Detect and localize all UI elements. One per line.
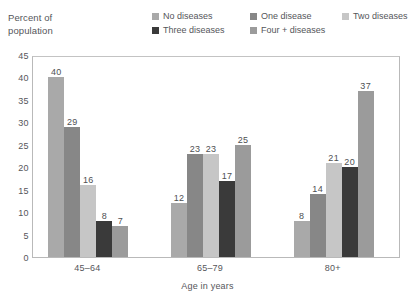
y-axis-title: Percent of population — [8, 12, 93, 37]
bar — [358, 91, 374, 257]
legend-label-two-diseases: Two diseases — [353, 11, 408, 21]
bar — [294, 221, 310, 257]
y-axis-title-line-2: population — [8, 25, 93, 38]
bar — [64, 127, 80, 257]
legend-label-four-plus-diseases: Four + diseases — [261, 25, 325, 35]
legend-item-no-diseases: No diseases — [152, 11, 250, 21]
y-axis-tick-25: 25 — [18, 141, 29, 151]
legend-label-no-diseases: No diseases — [163, 11, 213, 21]
legend-swatch-icon-one-disease — [250, 13, 257, 20]
y-axis-tick-0: 0 — [24, 253, 29, 263]
legend-label-one-disease: One disease — [261, 11, 312, 21]
y-axis-tick-20: 20 — [18, 163, 29, 173]
bar — [171, 203, 187, 257]
bar-value-label: 23 — [197, 144, 225, 154]
bar — [235, 145, 251, 257]
y-axis-tick-40: 40 — [18, 73, 29, 83]
bar — [310, 194, 326, 257]
y-axis-tick-45: 45 — [18, 51, 29, 61]
bar-value-label: 29 — [58, 117, 86, 127]
y-axis-tick-35: 35 — [18, 96, 29, 106]
bar — [342, 167, 358, 257]
x-axis-tick-0: 45–64 — [47, 263, 127, 273]
legend-swatch-icon-three-diseases — [152, 27, 159, 34]
y-axis-tick-5: 5 — [24, 231, 29, 241]
x-axis-tick-1: 65–79 — [170, 263, 250, 273]
bar-value-label: 16 — [74, 175, 102, 185]
bar — [112, 226, 128, 257]
bar — [96, 221, 112, 257]
plot-area: 402916871223231725814212037 — [32, 56, 400, 258]
bar-chart: Percent of population No diseases One di… — [0, 0, 415, 299]
bar — [80, 185, 96, 257]
bar-value-label: 40 — [42, 67, 70, 77]
legend-swatch-icon-no-diseases — [152, 13, 159, 20]
x-axis-title: Age in years — [0, 281, 415, 291]
legend-swatch-icon-two-diseases — [342, 13, 349, 20]
bars-container: 402916871223231725814212037 — [33, 57, 399, 257]
bar — [48, 77, 64, 257]
bar — [219, 181, 235, 257]
legend-item-four-plus-diseases: Four + diseases — [250, 25, 325, 35]
legend-label-three-diseases: Three diseases — [163, 25, 225, 35]
bar — [187, 154, 203, 257]
bar-value-label: 25 — [229, 135, 257, 145]
chart-legend: No diseases One disease Two diseases Thr… — [152, 9, 410, 37]
y-axis-title-line-1: Percent of — [8, 12, 93, 25]
legend-item-one-disease: One disease — [250, 11, 342, 21]
y-axis-tick-15: 15 — [18, 186, 29, 196]
y-axis-tick-30: 30 — [18, 118, 29, 128]
bar — [326, 163, 342, 257]
bar-value-label: 37 — [352, 81, 380, 91]
legend-item-three-diseases: Three diseases — [152, 25, 250, 35]
legend-row-2: Three diseases Four + diseases — [152, 23, 410, 37]
y-axis-tick-10: 10 — [18, 208, 29, 218]
bar — [203, 154, 219, 257]
legend-row-1: No diseases One disease Two diseases — [152, 9, 410, 23]
legend-swatch-icon-four-plus-diseases — [250, 27, 257, 34]
x-axis-tick-2: 80+ — [293, 263, 373, 273]
y-axis-tick-labels: 051015202530354045 — [8, 50, 29, 264]
bar-value-label: 7 — [106, 216, 134, 226]
legend-item-two-diseases: Two diseases — [342, 11, 408, 21]
